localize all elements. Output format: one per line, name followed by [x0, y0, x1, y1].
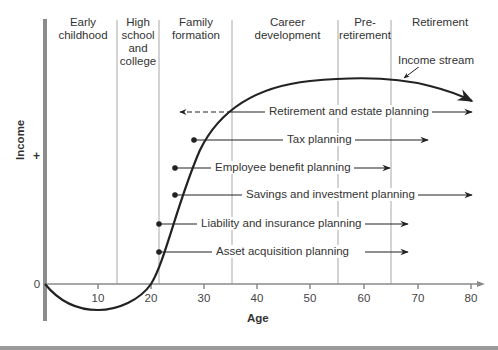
x-tick-10: 10: [83, 292, 113, 304]
y-axis-plus: +: [33, 149, 40, 163]
x-tick-80: 80: [456, 292, 486, 304]
x-axis-arrow-icon: [477, 281, 485, 287]
plan-liability-insurance: Liability and insurance planning: [198, 217, 364, 230]
plan-employee-benefit: Employee benefit planning: [212, 161, 354, 174]
stage-career-development: Career development: [240, 16, 335, 42]
stage-family-formation: Family formation: [162, 16, 230, 42]
stage-retirement: Retirement: [400, 16, 480, 29]
income-stream-pointer: [404, 66, 420, 78]
stage-pre-retirement: Pre- retirement: [337, 16, 393, 42]
x-axis-title: Age: [247, 312, 269, 324]
x-tick-30: 30: [189, 292, 219, 304]
plan-asset-acquisition: Asset acquisition planning: [213, 245, 352, 258]
stage-early-childhood: Early childhood: [52, 16, 114, 42]
x-tick-20: 20: [136, 292, 166, 304]
income-stream-label: Income stream: [398, 54, 474, 67]
plan-savings-investment: Savings and investment planning: [243, 188, 418, 201]
plan-tax: Tax planning: [284, 133, 355, 146]
x-tick-60: 60: [349, 292, 379, 304]
x-tick-70: 70: [403, 292, 433, 304]
bottom-border: [0, 346, 498, 350]
x-tick-40: 40: [242, 292, 272, 304]
plan-retirement-estate: Retirement and estate planning: [266, 105, 432, 118]
stage-high-school-college: High school and college: [118, 16, 158, 68]
x-tick-50: 50: [295, 292, 325, 304]
y-origin-label: 0: [30, 278, 44, 290]
y-axis-title: Income: [14, 120, 26, 160]
